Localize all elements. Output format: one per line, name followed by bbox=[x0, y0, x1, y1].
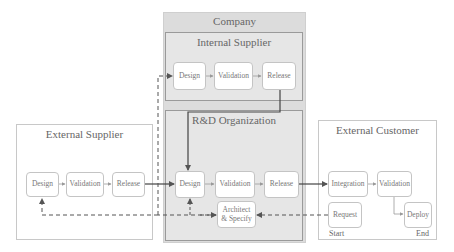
external-release-node: Release bbox=[112, 172, 145, 197]
customer-request-node: Request bbox=[328, 202, 362, 228]
end-label: End bbox=[416, 229, 429, 238]
architect-line2: & Specify bbox=[221, 215, 252, 224]
rnd-validation-node: Validation bbox=[215, 171, 255, 198]
customer-validation-node: Validation bbox=[377, 171, 412, 197]
internal-supplier-title: Internal Supplier bbox=[166, 36, 302, 48]
external-validation-node: Validation bbox=[66, 172, 104, 197]
external-design-node: Design bbox=[26, 172, 59, 197]
external-customer-title: External Customer bbox=[319, 124, 436, 136]
internal-validation-node: Validation bbox=[214, 62, 253, 90]
rnd-organization-title: R&D Organization bbox=[166, 114, 302, 126]
internal-design-node: Design bbox=[173, 62, 206, 90]
company-title: Company bbox=[164, 15, 305, 27]
customer-integration-node: Integration bbox=[328, 171, 368, 197]
rnd-design-node: Design bbox=[175, 171, 205, 198]
start-label: Start bbox=[329, 229, 344, 238]
external-supplier-title: External Supplier bbox=[17, 128, 152, 140]
internal-release-node: Release bbox=[262, 62, 296, 90]
customer-deploy-node: Deploy bbox=[404, 202, 432, 228]
architect-specify-node: Architect & Specify bbox=[217, 201, 256, 228]
rnd-release-node: Release bbox=[264, 171, 299, 198]
